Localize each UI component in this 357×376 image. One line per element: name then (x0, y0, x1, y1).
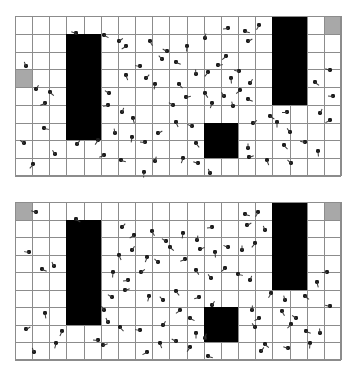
grid-line-vertical (341, 202, 342, 360)
panel-border (15, 202, 341, 360)
grid-line-horizontal (15, 360, 341, 361)
panel-border (15, 16, 341, 176)
grid-line-vertical (341, 16, 342, 176)
simulation-figure (0, 0, 357, 376)
grid-line-horizontal (15, 176, 341, 177)
panel-bottom (15, 202, 341, 360)
panel-top (15, 16, 341, 176)
